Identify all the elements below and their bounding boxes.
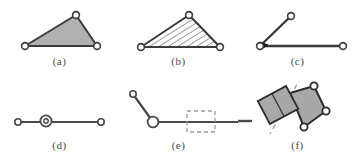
panel-e: (e)	[119, 81, 238, 162]
joint-circle	[130, 91, 136, 97]
panel-caption: (f)	[238, 139, 357, 151]
joint-circle	[186, 12, 193, 19]
panel-d-drawing	[0, 81, 119, 143]
panel-d: (d)	[0, 81, 119, 162]
joint-circle	[257, 43, 264, 50]
panel-f-drawing	[238, 81, 357, 143]
panel-caption: (c)	[238, 55, 357, 67]
link-bar-angled	[260, 16, 291, 46]
panel-caption: (b)	[119, 55, 238, 67]
joint-circle	[217, 44, 224, 51]
panel-a-drawing	[0, 0, 119, 62]
joint-circle	[94, 43, 101, 50]
joint-circle	[138, 44, 145, 51]
joint-circle	[300, 123, 307, 130]
joint-circle	[288, 13, 295, 20]
panel-f: (f)	[238, 81, 357, 162]
bearing-circle	[148, 117, 159, 128]
triangle-body-hatched	[141, 15, 220, 47]
bearing-inner-circle	[44, 119, 48, 123]
triangle-body	[25, 15, 97, 46]
panel-a: (a)	[0, 0, 119, 81]
panel-caption: (a)	[0, 55, 119, 67]
joint-circle	[15, 119, 21, 125]
panel-c-drawing	[238, 0, 357, 62]
panel-caption: (e)	[119, 139, 238, 151]
panel-caption: (d)	[0, 139, 119, 151]
panel-e-drawing	[119, 81, 238, 143]
panel-c: (c)	[238, 0, 357, 81]
panel-b-drawing	[119, 0, 238, 62]
figure-container: (a) (b) (c)	[0, 0, 357, 162]
panel-b: (b)	[119, 0, 238, 81]
joint-circle	[322, 107, 329, 114]
joint-circle	[310, 82, 317, 89]
joint-circle	[22, 43, 29, 50]
joint-circle	[340, 43, 347, 50]
joint-circle	[98, 119, 104, 125]
joint-circle	[73, 12, 80, 19]
